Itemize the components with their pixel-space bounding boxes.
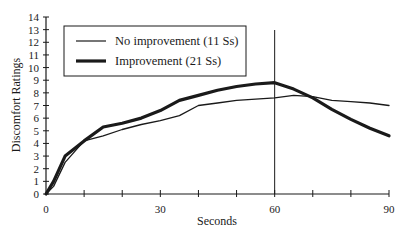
series-lines [46, 83, 389, 194]
y-tick-label: 1 [34, 175, 40, 187]
series-line-no-improvement [46, 95, 389, 194]
x-tick-label: 0 [43, 203, 49, 215]
y-tick-label: 3 [34, 150, 40, 162]
x-tick-label: 90 [384, 203, 396, 215]
y-tick-label: 4 [34, 137, 40, 149]
y-tick-label: 0 [34, 188, 40, 200]
legend-label-improvement: Improvement (21 Ss) [115, 54, 221, 68]
series-line-improvement [46, 83, 389, 194]
x-axis-title: Seconds [197, 214, 237, 228]
legend-label-no-improvement: No improvement (11 Ss) [115, 34, 238, 48]
y-tick-label: 9 [34, 74, 40, 86]
y-tick-label: 5 [34, 125, 40, 137]
x-tick-label: 30 [155, 203, 167, 215]
y-tick-label: 13 [28, 24, 40, 36]
x-tick-label: 60 [269, 203, 281, 215]
y-tick-label: 14 [28, 11, 40, 23]
y-tick-label: 12 [28, 36, 39, 48]
y-tick-label: 6 [34, 112, 40, 124]
y-tick-label: 7 [34, 100, 40, 112]
legend: No improvement (11 Ss) Improvement (21 S… [64, 26, 246, 76]
line-chart: 012345678910111213140306090 No improveme… [0, 0, 412, 242]
y-tick-label: 11 [28, 49, 39, 61]
y-axis-title: Discomfort Ratings [9, 58, 23, 153]
y-tick-label: 2 [34, 163, 40, 175]
y-tick-label: 8 [34, 87, 40, 99]
y-tick-label: 10 [28, 62, 40, 74]
